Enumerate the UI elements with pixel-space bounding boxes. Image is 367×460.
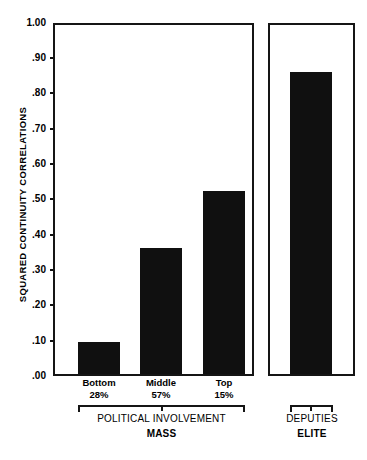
category-name-top: Top <box>216 377 233 388</box>
category-sublabel-bottom: 28% <box>89 389 108 400</box>
y-tick-label-0-70: .70 <box>14 124 46 134</box>
y-tick-label-0-20: .20 <box>14 300 46 310</box>
y-tick-label-0-40: .40 <box>14 230 46 240</box>
elite-group-label: DEPUTIES <box>265 413 359 425</box>
y-tick-label-0-80: .80 <box>14 88 46 98</box>
bar-elite-deputies <box>290 72 332 374</box>
category-label-middle: Middle 57% <box>135 377 187 400</box>
y-tick-label-0-90: .90 <box>14 53 46 63</box>
bar-mass-middle <box>140 248 182 374</box>
y-tick-label-0-00: .00 <box>14 371 46 381</box>
chart-figure: SQUARED CONTINUITY CORRELATIONS 1.00 .90… <box>0 0 367 460</box>
category-name-bottom: Bottom <box>82 377 115 388</box>
category-sublabel-top: 15% <box>214 389 233 400</box>
y-tick-label-1-00: 1.00 <box>14 18 46 28</box>
mass-group-label: POLITICAL INVOLVEMENT <box>63 413 260 425</box>
y-tick-label-0-30: .30 <box>14 265 46 275</box>
category-name-middle: Middle <box>146 377 176 388</box>
elite-group-label-bold: ELITE <box>265 428 359 440</box>
y-tick-label-0-60: .60 <box>14 159 46 169</box>
mass-group-bracket-tick <box>161 405 163 411</box>
category-label-bottom: Bottom 28% <box>73 377 125 400</box>
bar-mass-bottom <box>78 342 120 374</box>
y-tick-label-0-50: .50 <box>14 194 46 204</box>
bar-mass-top <box>203 191 245 374</box>
mass-group-label-bold: MASS <box>63 428 260 440</box>
y-tick-label-0-10: .10 <box>14 336 46 346</box>
category-label-top: Top 15% <box>198 377 250 400</box>
elite-group-bracket-tick <box>310 405 312 411</box>
category-sublabel-middle: 57% <box>151 389 170 400</box>
